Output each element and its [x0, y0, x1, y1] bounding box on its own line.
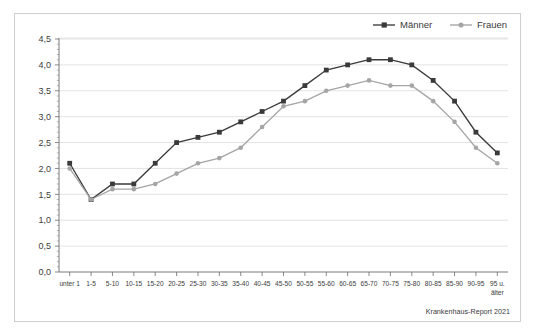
- axes-group: [59, 38, 508, 272]
- data-point-marker: [474, 130, 479, 135]
- x-tick-label: 25-30: [190, 280, 207, 287]
- data-point-marker: [260, 125, 265, 130]
- y-tick-label: 3,5: [38, 86, 51, 96]
- x-tick-label: unter 1: [59, 280, 80, 287]
- data-point-marker: [324, 88, 329, 93]
- data-point-marker: [67, 166, 72, 171]
- data-point-marker: [367, 78, 372, 83]
- data-point-marker: [89, 197, 94, 202]
- x-tick-label: 20-25: [168, 280, 185, 287]
- figure-container: 0,00,51,01,52,02,53,03,54,04,5unter 11-5…: [14, 13, 521, 322]
- x-tick-label: 80-85: [425, 280, 442, 287]
- legend-label: Frauen: [477, 19, 507, 30]
- data-point-marker: [153, 161, 158, 166]
- data-point-marker: [345, 62, 350, 67]
- data-point-marker: [217, 130, 222, 135]
- x-tick-label: 50-55: [296, 280, 313, 287]
- data-point-marker: [367, 57, 372, 62]
- x-tick-label: 90-95: [467, 280, 484, 287]
- x-tick-label: 1-5: [86, 280, 96, 287]
- data-point-marker: [495, 151, 500, 156]
- data-point-marker: [238, 119, 243, 124]
- data-point-marker: [452, 99, 457, 104]
- x-tick-label: 85-90: [446, 280, 463, 287]
- gridlines-group: 0,00,51,01,52,02,53,03,54,04,5: [38, 34, 508, 277]
- data-point-marker: [281, 99, 286, 104]
- legend-item-frauen[interactable]: Frauen: [450, 19, 507, 30]
- legend-marker: [382, 22, 387, 27]
- data-point-marker: [495, 161, 500, 166]
- y-tick-label: 2,5: [38, 138, 51, 148]
- data-point-marker: [174, 171, 179, 176]
- y-tick-label: 0,5: [38, 241, 51, 251]
- data-point-marker: [388, 57, 393, 62]
- x-tick-label: 10-15: [125, 280, 142, 287]
- legend: MännerFrauen: [373, 19, 507, 30]
- x-tick-label: 40-45: [254, 280, 271, 287]
- legend-item-männer[interactable]: Männer: [373, 19, 432, 30]
- x-ticks-group: unter 11-55-1010-1515-2020-2525-3030-353…: [59, 272, 504, 296]
- x-tick-label: 95 u.älter: [490, 280, 505, 296]
- x-tick-label: 60-65: [339, 280, 356, 287]
- data-point-marker: [174, 140, 179, 145]
- data-point-marker: [452, 120, 457, 125]
- y-tick-label: 1,5: [38, 190, 51, 200]
- data-point-marker: [196, 161, 201, 166]
- data-point-marker: [409, 83, 414, 88]
- source-note: Krankenhaus-Report 2021: [426, 307, 510, 316]
- y-tick-label: 1,0: [38, 215, 51, 225]
- legend-marker: [459, 23, 464, 28]
- data-point-marker: [303, 99, 308, 104]
- data-point-marker: [281, 104, 286, 109]
- data-point-marker: [132, 187, 137, 192]
- data-point-marker: [302, 83, 307, 88]
- x-tick-label: 45-50: [275, 280, 292, 287]
- data-point-marker: [260, 109, 265, 114]
- data-point-marker: [196, 135, 201, 140]
- data-point-marker: [110, 182, 115, 187]
- x-tick-label: 75-80: [403, 280, 420, 287]
- legend-label: Männer: [400, 19, 432, 30]
- x-tick-label: 15-20: [147, 280, 164, 287]
- data-point-marker: [153, 182, 158, 187]
- y-tick-label: 2,0: [38, 164, 51, 174]
- data-point-marker: [345, 83, 350, 88]
- y-tick-label: 3,0: [38, 112, 51, 122]
- x-tick-label: 35-40: [232, 280, 249, 287]
- data-point-marker: [131, 182, 136, 187]
- data-point-marker: [431, 78, 436, 83]
- x-tick-label: 65-70: [361, 280, 378, 287]
- data-point-marker: [431, 99, 436, 104]
- x-tick-label: 55-60: [318, 280, 335, 287]
- series-männer: [67, 57, 499, 202]
- x-tick-label: 30-35: [211, 280, 228, 287]
- y-tick-label: 4,0: [38, 60, 51, 70]
- x-tick-label: 70-75: [382, 280, 399, 287]
- line-chart: 0,00,51,01,52,02,53,03,54,04,5unter 11-5…: [15, 14, 520, 321]
- data-point-marker: [388, 83, 393, 88]
- data-point-marker: [238, 145, 243, 150]
- y-tick-label: 4,5: [38, 34, 51, 44]
- data-point-marker: [217, 156, 222, 161]
- x-tick-label: 5-10: [106, 280, 120, 287]
- data-point-marker: [409, 62, 414, 67]
- data-point-marker: [474, 145, 479, 150]
- data-point-marker: [110, 187, 115, 192]
- y-tick-label: 0,0: [38, 267, 51, 277]
- data-point-marker: [324, 68, 329, 73]
- data-point-marker: [67, 161, 72, 166]
